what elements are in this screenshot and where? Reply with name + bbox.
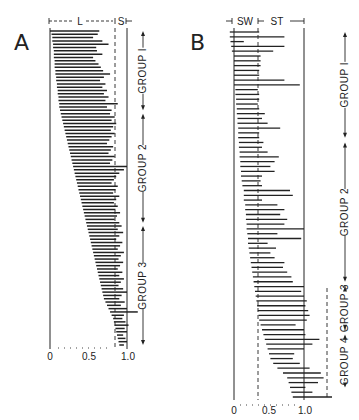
panel-b-header-st: ST: [271, 16, 284, 27]
panel-a-tick-05: 0.5: [82, 351, 96, 362]
group-label-text: GROUP 4: [340, 337, 351, 385]
group-label-4: GROUP 4: [340, 335, 351, 388]
panel-b-tick-05: 0.5: [262, 405, 276, 416]
panel-b-letter: B: [190, 30, 205, 55]
figure: A L S 0 0.5 1.0 GROUP IGROUP 2GROUP 3 B: [0, 0, 359, 420]
panel-a-letter: A: [14, 30, 29, 55]
panel-b-tick-10: 1.0: [298, 405, 312, 416]
panel-a-group-labels: GROUP IGROUP 2GROUP 3: [138, 31, 149, 345]
group-label-text: GROUP I: [340, 62, 351, 108]
group-label-2: GROUP 2: [138, 114, 149, 223]
group-label-text: GROUP 3: [138, 261, 149, 309]
group-label-text: GROUP 3: [340, 284, 351, 332]
panel-a-header-s: S: [118, 16, 125, 27]
group-label-text: GROUP 2: [340, 188, 351, 236]
group-label-3: GROUP 3: [138, 226, 149, 345]
panel-b-group-labels: GROUP IGROUP 2GROUP 3GROUP 4: [340, 32, 351, 387]
panel-a-tick-10: 1.0: [121, 351, 135, 362]
panel-a-bars: [50, 31, 138, 345]
panel-b-tick-0: 0: [231, 405, 237, 416]
group-label-text: GROUP I: [138, 48, 149, 94]
group-label-2: GROUP 2: [340, 142, 351, 281]
panel-b-header-sw: SW: [237, 16, 254, 27]
group-label-1: GROUP I: [138, 31, 149, 110]
panel-a-tick-0: 0: [47, 351, 53, 362]
group-label-text: GROUP 2: [138, 144, 149, 192]
panel-a: A L S 0 0.5 1.0 GROUP IGROUP 2GROUP 3: [14, 16, 149, 362]
panel-a-header-l: L: [77, 16, 83, 27]
panel-b: B SW ST 0 0.5 1.0 GROUP IGROUP 2GROUP 3G…: [190, 16, 351, 416]
group-label-3: GROUP 3: [340, 284, 351, 332]
group-label-1: GROUP I: [340, 32, 351, 138]
panel-b-bars: [230, 32, 332, 397]
